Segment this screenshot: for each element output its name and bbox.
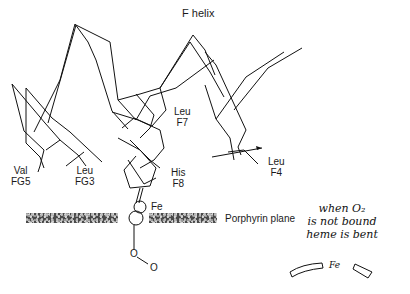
bent-heme-right: [353, 264, 372, 278]
hemoglobin-f-helix-diagram: [0, 0, 410, 294]
bent-heme-left: [290, 263, 323, 277]
label-leu-fg3-line1: Leu: [75, 165, 94, 176]
backbone-strand: [205, 85, 234, 160]
label-leu-f7-line1: Leu: [174, 106, 191, 117]
backbone-strand: [212, 148, 262, 157]
backbone-strand: [176, 60, 214, 88]
porphyrin-plane-right: [149, 213, 217, 223]
handwritten-note-line2: is not bound: [282, 215, 402, 228]
handwritten-note-line3: heme is bent: [282, 228, 402, 241]
handwritten-note: when O₂ is not bound heme is bent: [282, 202, 402, 241]
backbone-strand: [130, 140, 160, 168]
label-his-f8: His F8: [171, 167, 185, 189]
label-val-fg5: Val FG5: [11, 165, 30, 187]
backbone-strand: [12, 84, 44, 172]
backbone-strand: [160, 42, 224, 97]
label-leu-f7: Leu F7: [174, 106, 191, 128]
label-his-f8-line2: F8: [171, 178, 185, 189]
backbone-strand: [26, 88, 44, 168]
f-helix-title: F helix: [182, 8, 214, 19]
label-leu-f4-line1: Leu: [268, 156, 285, 167]
label-fe: Fe: [151, 201, 163, 212]
backbone-strand: [12, 84, 86, 166]
label-oxygen-1: O: [130, 248, 138, 259]
label-leu-fg3: Leu FG3: [75, 165, 94, 187]
label-leu-f4: Leu F4: [268, 156, 285, 178]
backbone-strand: [48, 25, 176, 123]
label-leu-fg3-line2: FG3: [75, 176, 94, 187]
backbone-strand: [34, 24, 128, 132]
label-leu-f4-line2: F4: [268, 167, 285, 178]
label-leu-f7-line2: F7: [174, 117, 191, 128]
label-oxygen-2: O: [150, 262, 158, 273]
label-val-fg5-line2: FG5: [11, 176, 30, 187]
label-his-f8-line1: His: [171, 167, 185, 178]
handwritten-note-line1: when O₂: [282, 202, 402, 215]
backbone-strand: [216, 52, 284, 119]
backbone-strand: [46, 140, 60, 150]
fe-atom-lower: [129, 211, 143, 225]
label-val-fg5-line1: Val: [11, 165, 30, 176]
handwritten-fe-label: Fe: [329, 259, 340, 272]
porphyrin-plane-left: [26, 213, 118, 223]
